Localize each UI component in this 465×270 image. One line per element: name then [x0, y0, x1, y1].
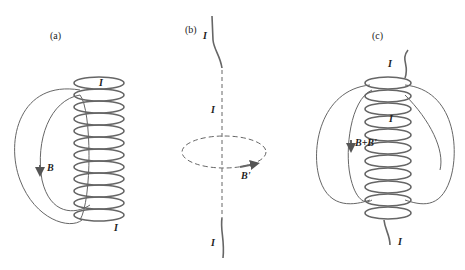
panel-a-current-label-top: I [99, 77, 103, 88]
panel-a-current-label-bottom: I [114, 222, 118, 233]
panel-a-field-lines [15, 89, 90, 224]
panel-b-current-label-mid: I [211, 104, 215, 115]
panel-a-solenoid [74, 77, 124, 221]
panel-b-current-label-top: I [203, 30, 207, 41]
panel-c-current-label-bottom: I [398, 236, 402, 247]
panel-c-field-label: B+B' [355, 137, 377, 148]
panel-a-field-label: B [47, 162, 54, 173]
panel-b-label: (b) [185, 24, 197, 35]
panel-b-wire [182, 16, 266, 258]
diagram-canvas [0, 0, 465, 270]
panel-c-label: (c) [372, 30, 383, 41]
panel-b-field-label: B' [241, 170, 250, 181]
panel-c-current-label-top: I [388, 58, 392, 69]
panel-c-current-label-mid: I [389, 113, 393, 124]
panel-b-current-label-bottom: I [211, 237, 215, 248]
panel-a-label: (a) [50, 30, 61, 41]
